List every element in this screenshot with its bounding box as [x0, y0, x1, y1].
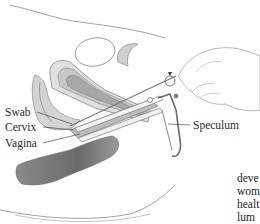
anatomical-illustration — [0, 0, 260, 224]
body-text-line: lum — [237, 211, 260, 224]
body-outline-lower — [0, 185, 175, 218]
body-text-line: wom — [237, 185, 260, 198]
body-text-line: deve — [237, 172, 260, 185]
body-text-line: healt — [237, 198, 260, 211]
label-cervix: Cervix — [5, 122, 36, 134]
label-speculum: Speculum — [193, 120, 239, 132]
bladder — [73, 35, 117, 70]
speculum-screw — [148, 98, 153, 103]
vagina-leader — [43, 134, 80, 143]
label-swab: Swab — [5, 107, 31, 119]
label-vagina: Vagina — [5, 138, 37, 150]
pubic-bone — [117, 44, 138, 66]
speculum-leader — [168, 124, 190, 125]
examiner-hand — [178, 48, 260, 111]
body-text-fragment: deve wom healt lum — [237, 172, 260, 224]
body-outline — [10, 5, 165, 38]
speculum-handle — [158, 94, 181, 156]
